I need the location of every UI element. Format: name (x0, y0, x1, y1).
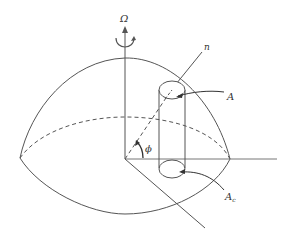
angle-phi-label: ϕ (145, 143, 152, 154)
pointer-to-Ac (181, 172, 224, 190)
base-front-curve (20, 158, 230, 214)
hemisphere-diagram: Ω n A Ac ϕ (0, 0, 288, 242)
angle-phi-arc (137, 142, 143, 158)
normal-label: n (204, 42, 210, 52)
area-a-label: A (226, 91, 234, 102)
rotation-arrowhead (131, 36, 136, 41)
area-ac-label: Ac (224, 191, 236, 203)
omega-label: Ω (119, 13, 128, 24)
axis-arrowhead (122, 26, 128, 33)
cylinder-bottom-ellipse (159, 160, 185, 178)
